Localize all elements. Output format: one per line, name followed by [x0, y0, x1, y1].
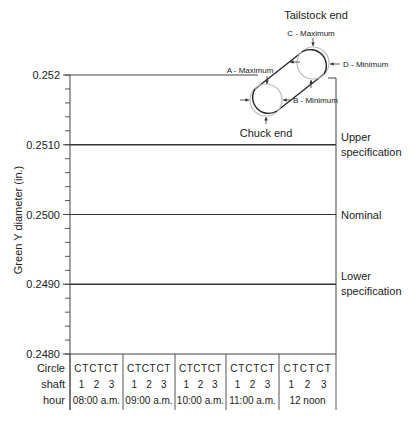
- reference-label: Lower: [341, 270, 371, 282]
- point-d-label: D - Minimum: [343, 60, 389, 69]
- circle-label: T: [112, 363, 118, 374]
- shaft-label: 2: [198, 379, 204, 390]
- chuck-end-arc: [253, 89, 277, 113]
- table-row-label: shaft: [41, 378, 65, 390]
- shaft-label: 1: [132, 379, 138, 390]
- tailstock-end-arc: [302, 50, 326, 74]
- tailstock-end-circle: [297, 47, 329, 79]
- shaft-label: 2: [305, 379, 311, 390]
- y-tick-label: 0.2510: [26, 139, 60, 151]
- chuck-end-label: Chuck end: [240, 127, 293, 139]
- reference-label: specification: [341, 146, 402, 158]
- circle-label: C: [193, 363, 200, 374]
- circle-label: C: [179, 363, 186, 374]
- shaft-label: 3: [321, 379, 327, 390]
- circle-label: C: [300, 363, 307, 374]
- arrow-c-head: [311, 42, 314, 46]
- reference-label: Upper: [341, 131, 371, 143]
- circle-label: T: [135, 363, 141, 374]
- arrow-b-head: [283, 98, 287, 101]
- shaft-label: 3: [265, 379, 271, 390]
- shaft-label: 2: [94, 379, 100, 390]
- shaft-label: 2: [146, 379, 152, 390]
- shaft-edge-bottom: [277, 74, 324, 111]
- circle-label: T: [253, 363, 259, 374]
- shaft-label: 3: [212, 379, 218, 390]
- circle-label: T: [187, 363, 193, 374]
- shaft-label: 1: [79, 379, 85, 390]
- arrow-tail-bottom-head: [309, 80, 312, 84]
- hour-label: 09:00 a.m.: [125, 395, 172, 406]
- circle-label: T: [309, 363, 315, 374]
- point-b-label: B - Minimum: [293, 96, 338, 105]
- tailstock-end-label: Tailstock end: [284, 9, 348, 21]
- y-tick-label: 0.2500: [26, 209, 60, 221]
- shaft-label: 1: [288, 379, 294, 390]
- circle-label: C: [230, 363, 237, 374]
- circle-label: T: [150, 363, 156, 374]
- y-tick-label: 0.252: [32, 69, 60, 81]
- table-row-label: Circle: [37, 362, 65, 374]
- circle-label: C: [245, 363, 252, 374]
- circle-label: T: [268, 363, 274, 374]
- circle-label: T: [325, 363, 331, 374]
- circle-label: C: [142, 363, 149, 374]
- circle-label: T: [215, 363, 221, 374]
- shaft-label: 3: [161, 379, 167, 390]
- circle-label: C: [74, 363, 81, 374]
- y-tick-label: 0.2490: [26, 278, 60, 290]
- arrow-d-head: [330, 62, 334, 65]
- circle-label: T: [201, 363, 207, 374]
- circle-label: C: [104, 363, 111, 374]
- circle-label: T: [97, 363, 103, 374]
- shaft-label: 1: [183, 379, 189, 390]
- y-tick-label: 0.2480: [26, 348, 60, 360]
- circle-label: T: [238, 363, 244, 374]
- circle-label: C: [260, 363, 267, 374]
- point-c-label: C - Maximum: [287, 29, 335, 38]
- shaft-label: 1: [235, 379, 241, 390]
- hour-label: 11:00 a.m.: [229, 395, 276, 406]
- circle-label: T: [164, 363, 170, 374]
- circle-label: C: [316, 363, 323, 374]
- arrow-chuck-bottom-head: [264, 117, 267, 121]
- circle-label: T: [292, 363, 298, 374]
- arrow-chuck-left-head: [245, 98, 249, 101]
- y-axis-title: Green Y diameter (in.): [12, 166, 24, 274]
- chuck-end-circle: [250, 84, 282, 116]
- circle-label: T: [82, 363, 88, 374]
- hour-label: 12 noon: [289, 395, 325, 406]
- reference-label: specification: [341, 285, 402, 297]
- circle-label: C: [89, 363, 96, 374]
- spec-chart: 0.2520.25100.25000.24900.2480Green Y dia…: [0, 0, 414, 424]
- circle-label: C: [156, 363, 163, 374]
- hour-label: 08:00 a.m.: [73, 395, 120, 406]
- table-row-label: hour: [43, 394, 65, 406]
- hour-label: 10:00 a.m.: [177, 395, 224, 406]
- circle-label: C: [127, 363, 134, 374]
- shaft-label: 2: [250, 379, 256, 390]
- reference-label: Nominal: [341, 209, 381, 221]
- circle-label: C: [283, 363, 290, 374]
- shaft-label: 3: [109, 379, 115, 390]
- circle-label: C: [208, 363, 215, 374]
- point-a-label: A - Maximum: [227, 66, 274, 75]
